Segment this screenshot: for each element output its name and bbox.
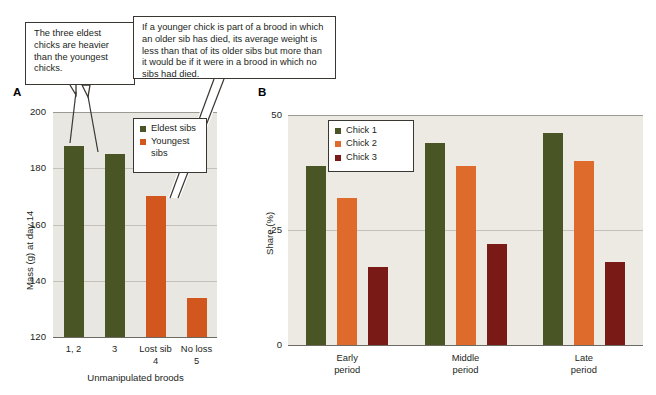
legend-label: Eldest sibs (151, 123, 196, 134)
legend-label: Chick 2 (346, 138, 377, 149)
legend-swatch-icon (335, 155, 341, 161)
panel-b-legend: Chick 1Chick 2Chick 3 (328, 120, 414, 172)
panel-a-legend: Eldest sibsYoungest sibs (133, 118, 207, 173)
panel-b-legend-item: Chick 2 (335, 138, 406, 149)
legend-swatch-icon (140, 126, 146, 132)
panel-b-legend-item: Chick 1 (335, 125, 406, 136)
panel-label-a: A (13, 86, 21, 98)
panel-a-legend-item: Eldest sibs (140, 123, 199, 134)
figure-root: The three eldest chicks are heavier than… (0, 0, 656, 395)
legend-swatch-icon (335, 141, 341, 147)
callout-younger-chick-weight: If a younger chick is part of a brood in… (133, 16, 336, 79)
legend-label: Chick 3 (346, 152, 377, 163)
panel-a-legend-item: Youngest sibs (140, 136, 199, 159)
callout-eldest-chicks: The three eldest chicks are heavier than… (25, 22, 135, 85)
panel-b-legend-item: Chick 3 (335, 152, 406, 163)
legend-swatch-icon (140, 139, 146, 145)
legend-swatch-icon (335, 128, 341, 134)
panel-label-b: B (258, 86, 266, 98)
legend-label: Chick 1 (346, 125, 377, 136)
legend-label: Youngest sibs (151, 136, 199, 159)
